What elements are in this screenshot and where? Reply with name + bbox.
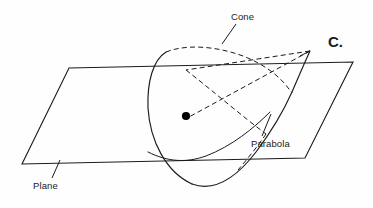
conic-section-figure: Cone Parabola Plane C. [0, 0, 373, 208]
cone-right-element [292, 51, 310, 92]
apex-construction-lines [186, 51, 310, 170]
apex-to-focus-line [189, 51, 310, 117]
parabola-path [148, 112, 270, 161]
cone-label: Cone [231, 11, 254, 22]
cone-hidden-rim [166, 47, 291, 92]
parabola-label: Parabola [251, 138, 290, 149]
apex-to-rim-line [186, 51, 310, 70]
panel-label: C. [328, 33, 343, 50]
cone-leader-line [222, 24, 236, 44]
figure-canvas [0, 0, 373, 208]
parabola-curve [148, 112, 270, 161]
focus-dot [182, 112, 190, 120]
plane-leader-line [52, 160, 60, 178]
plane-label: Plane [33, 180, 58, 191]
cone-rim-dashed [166, 47, 291, 92]
hidden-element-line [186, 70, 266, 134]
focus-point [182, 112, 190, 120]
cone-surface [148, 51, 310, 186]
